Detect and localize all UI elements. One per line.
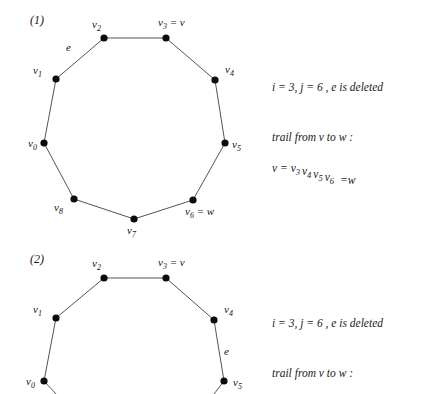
node-label-subscript: 1 (38, 309, 42, 318)
graph-edge-v7-v8 (74, 199, 134, 219)
graph-edge-v5-v6 (193, 143, 225, 200)
node-label-v5: v5 (232, 138, 241, 153)
graph-node-v2[interactable] (100, 274, 107, 281)
graph-node-v5[interactable] (221, 139, 228, 146)
graph-node-v7[interactable] (130, 215, 137, 222)
graph-edge-v1-v2 (56, 38, 104, 79)
node-label-v0: v0 (28, 137, 37, 152)
graph-node-v6[interactable] (189, 196, 196, 203)
node-label-subscript: 1 (38, 70, 42, 79)
graph-node-v0[interactable] (40, 139, 47, 146)
node-label-v3: v3 = v (158, 16, 185, 31)
node-label-v0: v0 (26, 375, 35, 390)
graph-node-v3[interactable] (162, 34, 169, 41)
node-label-subscript: 8 (59, 207, 63, 216)
node-label-subscript: 7 (132, 230, 137, 239)
panel-label-2: (2) (30, 252, 44, 266)
trail-prefix: v = (272, 162, 291, 174)
graph-node-v4[interactable] (210, 316, 217, 323)
node-label-v1: v1 (33, 303, 42, 318)
node-label-subscript: 5 (238, 382, 242, 391)
note-1-2: trail from v to w : (272, 131, 353, 144)
graph-edge-v3-v4 (166, 38, 215, 80)
graph-diagram-svg: v0v1v2v3 = vv4v5v6 = wv7v8(1)ei = 3, j =… (0, 0, 423, 394)
edge-label-e-1: e (66, 41, 71, 53)
trail-vertex-subscript: 3 (295, 167, 300, 177)
node-label-v3: v3 = v (158, 256, 185, 271)
graph-edge-v3-v4 (166, 278, 214, 320)
note-1-3: v = v3v4v5v6=w (272, 162, 356, 186)
graph-edge-v4-v5 (215, 80, 225, 143)
node-label-subscript: 0 (31, 381, 35, 390)
edge-label-e-2: e (224, 345, 229, 357)
node-label-extra: = v (167, 256, 185, 268)
node-label-subscript: 0 (33, 143, 37, 152)
trail-suffix: =w (340, 174, 356, 186)
graph-node-v1[interactable] (52, 75, 59, 82)
panel-label-1: (1) (30, 13, 44, 27)
node-label-v6: v6 = w (185, 205, 215, 220)
figure-container: v0v1v2v3 = vv4v5v6 = wv7v8(1)ei = 3, j =… (0, 0, 423, 394)
node-label-subscript: 4 (229, 309, 233, 318)
node-label-v2: v2 (92, 18, 101, 33)
node-label-v2: v2 (92, 257, 101, 272)
graph-edge-v1-v2 (56, 278, 104, 318)
node-label-subscript: 2 (97, 263, 101, 272)
graph-edge-v0-v1 (44, 318, 56, 381)
trail-vertex-subscript: 6 (330, 176, 335, 186)
graph-node-v2[interactable] (100, 34, 107, 41)
panel-2: v0v1v2v3 = vv4v5(2)ei = 3, j = 6 , e is … (26, 252, 383, 394)
node-label-v4: v4 (225, 63, 234, 78)
graph-edge-v4-v5 (214, 320, 224, 381)
note-1-1: i = 3, j = 6 , e is deleted (272, 81, 383, 94)
node-label-subscript: 4 (230, 69, 234, 78)
node-label-extra: = v (167, 16, 185, 28)
graph-node-v1[interactable] (52, 314, 59, 321)
graph-node-v5[interactable] (220, 377, 227, 384)
node-label-v7: v7 (127, 224, 137, 239)
graph-node-v8[interactable] (70, 195, 77, 202)
graph-node-v3[interactable] (162, 274, 169, 281)
trail-vertex-subscript: 4 (307, 170, 312, 180)
note-2-1: i = 3, j = 6 , e is deleted (272, 317, 383, 330)
node-label-v5: v5 (233, 376, 242, 391)
graph-edge-v8-v0 (44, 143, 74, 199)
trail-vertex-subscript: 5 (318, 173, 322, 183)
graph-node-v0[interactable] (40, 377, 47, 384)
panel-1: v0v1v2v3 = vv4v5v6 = wv7v8(1)ei = 3, j =… (28, 13, 383, 239)
node-label-subscript: 5 (237, 144, 241, 153)
node-label-subscript: 2 (97, 24, 101, 33)
note-2-2: trail from v to w : (272, 367, 353, 380)
graph-node-v4[interactable] (211, 76, 218, 83)
node-label-v8: v8 (54, 201, 63, 216)
node-label-v1: v1 (33, 64, 42, 79)
node-label-v4: v4 (224, 303, 233, 318)
graph-edge-v0-v1 (44, 79, 56, 143)
node-label-extra: = w (194, 205, 215, 217)
